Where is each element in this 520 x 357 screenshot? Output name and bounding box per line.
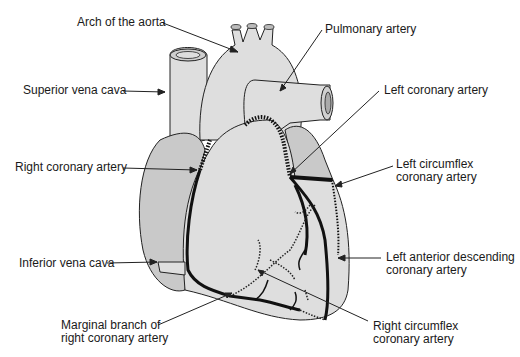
label-left-coronary-artery: Left coronary artery [384, 84, 488, 97]
label-left-anterior-descending-coronary-artery: Left anterior descending coronary artery [386, 251, 515, 277]
label-superior-vena-cava: Superior vena cava [23, 84, 126, 97]
label-marginal-branch-right-coronary-artery: Marginal branch of right coronary artery [61, 319, 168, 345]
label-right-coronary-artery: Right coronary artery [15, 161, 127, 174]
label-lad-line2: coronary artery [386, 264, 515, 277]
label-arch-of-aorta: Arch of the aorta [77, 16, 166, 29]
label-marginal-line2: right coronary artery [61, 332, 168, 345]
label-right-circumflex-coronary-artery: Right circumflex coronary artery [373, 320, 458, 346]
label-left-circumflex-coronary-artery: Left circumflex coronary artery [396, 158, 477, 184]
label-pulmonary-artery: Pulmonary artery [325, 23, 416, 36]
label-right-circumflex-line2: coronary artery [373, 333, 458, 346]
label-inferior-vena-cava: Inferior vena cava [19, 257, 114, 270]
label-left-circumflex-line2: coronary artery [396, 171, 477, 184]
